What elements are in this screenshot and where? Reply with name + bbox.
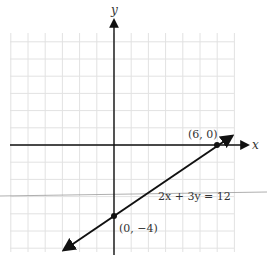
point-x-intercept — [214, 142, 220, 148]
point-y-intercept — [111, 213, 117, 219]
point-label-x-intercept: (6, 0) — [188, 128, 218, 141]
point-label-y-intercept: (0, −4) — [119, 222, 158, 235]
equation-label: 2x + 3y = 12 — [158, 190, 231, 203]
coordinate-graph: x y (6, 0) (0, −4) 2x + 3y = 12 — [0, 0, 267, 263]
y-axis-label: y — [110, 3, 118, 17]
x-axis-label: x — [252, 138, 259, 152]
grid — [10, 33, 234, 252]
